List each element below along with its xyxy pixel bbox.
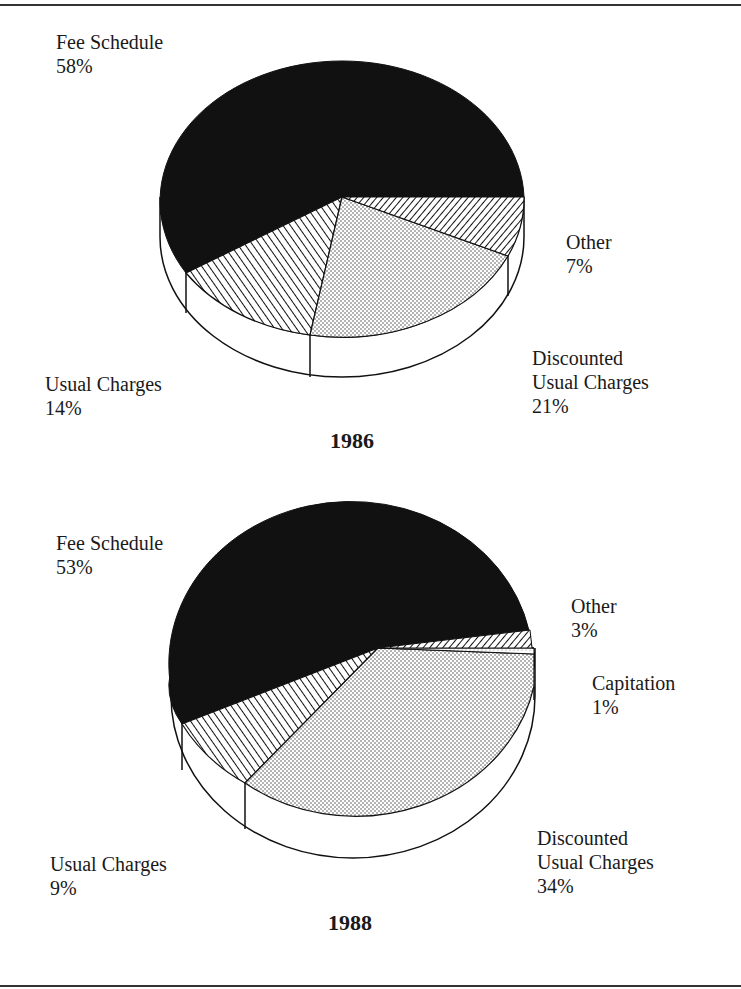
label-1988-capitation: Capitation 1%: [592, 671, 675, 719]
label-1986-fee-schedule: Fee Schedule 58%: [56, 30, 163, 78]
label-1986-usual-charges: Usual Charges 14%: [45, 372, 162, 420]
label-1988-usual-charges: Usual Charges 9%: [50, 852, 167, 900]
label-1988-discounted-usual-charges: Discounted Usual Charges 34%: [537, 826, 654, 898]
year-title-1988: 1988: [328, 910, 372, 936]
bottom-rule: [0, 985, 741, 987]
pie-1988: [169, 502, 535, 858]
label-1986-other: Other 7%: [566, 230, 612, 278]
label-1988-fee-schedule: Fee Schedule 53%: [56, 531, 163, 579]
label-1988-other: Other 3%: [571, 594, 617, 642]
pie-1986: [160, 61, 524, 377]
label-1986-discounted-usual-charges: Discounted Usual Charges 21%: [532, 346, 649, 418]
year-title-1986: 1986: [330, 428, 374, 454]
